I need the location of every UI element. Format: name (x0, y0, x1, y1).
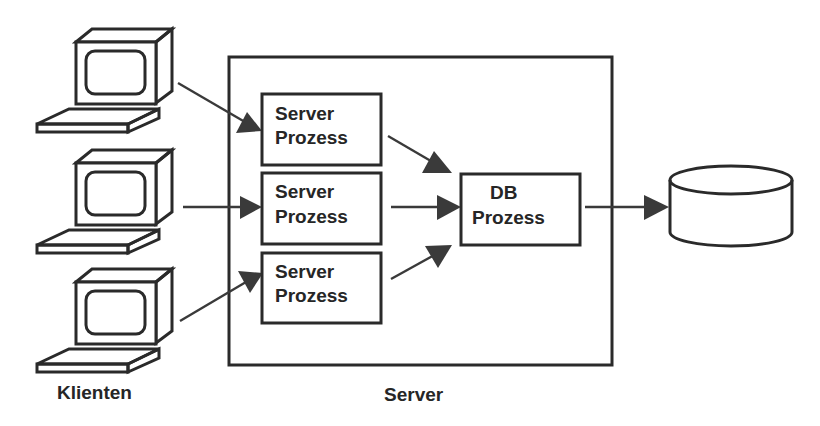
db-process-box: DB Prozess (461, 174, 580, 245)
clients-label: Klienten (57, 382, 132, 403)
server-label: Server (384, 384, 444, 405)
arrow-client-3-to-server-process-3 (180, 271, 263, 321)
database-cylinder-icon (670, 166, 792, 246)
arrow-client-2-to-server-process-2 (183, 196, 262, 219)
server-process-label-line2: Prozess (275, 127, 348, 148)
server-process-label-line2: Prozess (275, 285, 348, 306)
server-process-label-line1: Server (275, 181, 335, 202)
arrow-server-process-1-to-db-process (388, 136, 452, 173)
db-process-label-line2: Prozess (472, 207, 545, 228)
arrow-server-process-2-to-db-process (391, 195, 461, 220)
server-process-box: Server Prozess (262, 253, 381, 323)
server-process-box: Server Prozess (262, 94, 381, 165)
client-computer-icon (37, 269, 172, 372)
server-process-label-line2: Prozess (275, 206, 348, 227)
arrow-db-process-to-database (585, 195, 669, 220)
db-process-label-line1: DB (490, 182, 517, 203)
server-process-label-line1: Server (275, 103, 335, 124)
server-process-box: Server Prozess (262, 173, 381, 244)
client-computer-icon (37, 29, 172, 132)
architecture-diagram: Server Prozess Server Prozess Server Pro… (0, 0, 820, 426)
arrow-server-process-3-to-db-process (391, 245, 452, 279)
client-computer-icon (37, 150, 172, 253)
server-process-label-line1: Server (275, 261, 335, 282)
arrow-client-1-to-server-process-1 (178, 83, 262, 133)
